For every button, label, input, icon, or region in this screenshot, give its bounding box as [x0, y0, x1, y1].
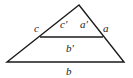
- label-c-prime: c′: [60, 18, 68, 30]
- label-b-prime: b′: [66, 42, 75, 54]
- triangle-diagram: c c′ a′ a b′ b: [0, 0, 133, 78]
- label-b: b: [66, 65, 72, 77]
- label-a: a: [103, 22, 109, 34]
- label-c: c: [34, 22, 39, 34]
- label-a-prime: a′: [80, 18, 89, 30]
